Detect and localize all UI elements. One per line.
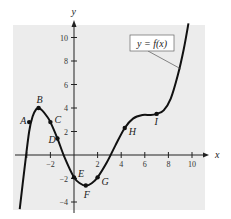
point-marker-e xyxy=(72,175,76,179)
point-label-d: D xyxy=(47,134,56,145)
y-tick-label: 4 xyxy=(64,104,68,113)
point-marker-a xyxy=(27,120,31,124)
point-marker-f xyxy=(84,183,88,187)
y-axis-arrow-icon xyxy=(72,20,77,27)
y-tick-label: 8 xyxy=(64,57,68,66)
y-tick-label: 10 xyxy=(60,34,68,43)
point-label-g: G xyxy=(102,176,109,187)
point-marker-c xyxy=(48,120,52,124)
x-axis-label: x xyxy=(214,149,220,160)
point-marker-b xyxy=(36,106,40,110)
x-tick-label: 6 xyxy=(143,160,147,169)
x-tick-label: −2 xyxy=(46,160,55,169)
x-tick-label: 4 xyxy=(119,160,123,169)
y-tick-label: 2 xyxy=(64,128,68,137)
x-tick-label: 10 xyxy=(188,160,196,169)
x-tick-label: 8 xyxy=(166,160,170,169)
point-label-c: C xyxy=(54,114,61,125)
function-label-text: y = f(x) xyxy=(136,38,168,50)
y-tick-label: −2 xyxy=(59,175,68,184)
plot-background xyxy=(13,25,205,210)
y-axis-label: y xyxy=(71,6,77,17)
point-label-e: E xyxy=(77,168,84,179)
point-label-i: I xyxy=(154,116,159,127)
x-axis-arrow-icon xyxy=(203,153,209,158)
point-marker-h xyxy=(123,126,127,130)
point-label-a: A xyxy=(19,115,27,126)
function-graph: xy −2246810−4−2246810 ABCDEFGHI y = f(x) xyxy=(0,0,231,219)
point-label-b: B xyxy=(37,94,43,105)
point-label-f: F xyxy=(83,189,91,200)
point-marker-g xyxy=(95,175,99,179)
point-label-h: H xyxy=(128,126,137,137)
y-tick-label: 6 xyxy=(64,81,68,90)
point-marker-d xyxy=(55,136,59,140)
x-tick-label: 2 xyxy=(96,160,100,169)
y-tick-label: −4 xyxy=(59,198,68,207)
